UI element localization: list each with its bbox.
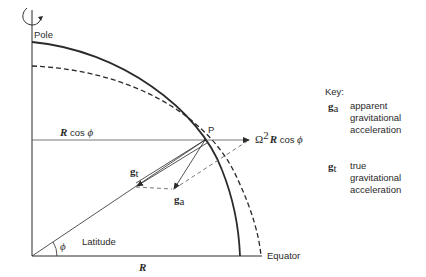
svg-text:acceleration: acceleration — [350, 184, 401, 195]
svg-text:ga: ga — [328, 100, 339, 114]
radius-label: R — [138, 261, 146, 273]
svg-text:gravitational: gravitational — [350, 172, 401, 183]
g-apparent-label: ga — [174, 193, 185, 207]
point-p-label: P — [208, 124, 214, 135]
key-title: Key: — [325, 86, 344, 97]
svg-text:gt: gt — [328, 160, 337, 174]
apparent-surface-arc — [32, 66, 261, 256]
svg-text:true: true — [350, 160, 366, 171]
svg-text:apparent: apparent — [350, 100, 388, 111]
true-surface-arc — [32, 42, 240, 256]
pole-label: Pole — [34, 29, 53, 40]
key-item-true: gt true gravitational acceleration — [328, 160, 401, 195]
angle-phi-label: ϕ — [60, 240, 66, 252]
parallelogram-dash-1 — [136, 187, 172, 189]
svg-text:acceleration: acceleration — [350, 124, 401, 135]
g-apparent-vector — [174, 140, 205, 189]
centrifugal-label: Ω2R cos ϕ — [255, 129, 303, 145]
rotation-arrow-icon — [23, 8, 43, 25]
latitude-angle-arc — [53, 242, 57, 256]
g-true-label: gt — [130, 165, 139, 179]
key-legend: Key: ga apparent gravitational accelerat… — [325, 86, 401, 195]
r-cos-phi-label: R cos ϕ — [59, 126, 93, 138]
point-p — [204, 139, 206, 141]
svg-text:gravitational: gravitational — [350, 112, 401, 123]
gravity-diagram: Pole P Equator Latitude ϕ R R cos ϕ Ω2R … — [0, 0, 426, 277]
key-item-apparent: ga apparent gravitational acceleration — [328, 100, 401, 135]
equator-label: Equator — [267, 250, 300, 261]
latitude-label: Latitude — [82, 236, 116, 247]
